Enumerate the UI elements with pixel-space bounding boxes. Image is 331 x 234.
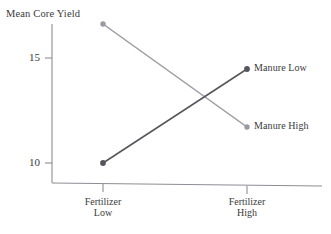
series-line-manure-low (103, 69, 247, 163)
x-tick-low-line2: Low (58, 207, 148, 218)
x-axis-tick-label-fertilizer-high: Fertilizer High (202, 196, 292, 218)
x-tick-high-line1: Fertilizer (202, 196, 292, 207)
y-axis-tick-label-10: 10 (14, 156, 40, 168)
series-label-manure-high: Manure High (254, 120, 309, 131)
data-point-manure-low-fertilizer-low (100, 160, 106, 166)
x-axis-tick-label-fertilizer-low: Fertilizer Low (58, 196, 148, 218)
x-tick-low-line1: Fertilizer (58, 196, 148, 207)
data-point-manure-high-fertilizer-low (100, 21, 105, 26)
interaction-plot: Mean Core Yield 15 10 Fertilizer Low Fer… (0, 0, 331, 234)
data-point-manure-low-fertilizer-high (244, 66, 250, 72)
series-line-manure-high (103, 24, 247, 127)
data-point-manure-high-fertilizer-high (244, 124, 249, 129)
x-tick-high-line2: High (202, 207, 292, 218)
y-axis-title: Mean Core Yield (6, 8, 80, 20)
x-axis-line (52, 183, 322, 186)
y-axis-tick-label-15: 15 (14, 51, 40, 63)
series-label-manure-low: Manure Low (254, 62, 307, 73)
